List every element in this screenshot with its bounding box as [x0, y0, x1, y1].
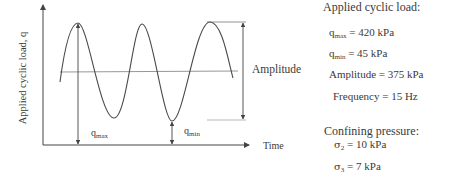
qmin-value-sub: min: [335, 53, 346, 61]
sigma2-symbol: σ: [334, 139, 341, 150]
confining-pressure-heading: Confining pressure:: [324, 124, 419, 139]
qmax-label-sub: max: [96, 132, 108, 140]
qmax-value-number: = 420 kPa: [347, 26, 394, 38]
qmax-value: qmax = 420 kPa: [329, 26, 394, 40]
qmin-value: qmin = 45 kPa: [329, 47, 387, 61]
amplitude-value: Amplitude = 375 kPa: [329, 68, 424, 80]
sigma2-value: σ2 = 10 kPa: [334, 138, 386, 152]
qmin-value-number: = 45 kPa: [345, 47, 387, 59]
frequency-value: Frequency = 15 Hz: [333, 90, 418, 102]
qmin-label-sub: min: [189, 130, 200, 138]
sigma3-number: = 7 kPa: [344, 160, 380, 172]
applied-load-heading: Applied cyclic load:: [323, 0, 420, 15]
qmax-label: qmax: [91, 127, 108, 140]
y-axis-label: Applied cyclic load, q: [17, 31, 28, 124]
qmin-label: qmin: [184, 125, 200, 138]
mean-line: [60, 71, 238, 72]
qmax-value-sub: max: [335, 32, 347, 40]
sigma3-symbol: σ: [334, 161, 341, 172]
x-axis-label: Time: [263, 140, 284, 151]
sigma3-value: σ3 = 7 kPa: [334, 160, 381, 174]
sigma2-number: = 10 kPa: [344, 138, 386, 150]
amplitude-label: Amplitude: [252, 63, 301, 75]
